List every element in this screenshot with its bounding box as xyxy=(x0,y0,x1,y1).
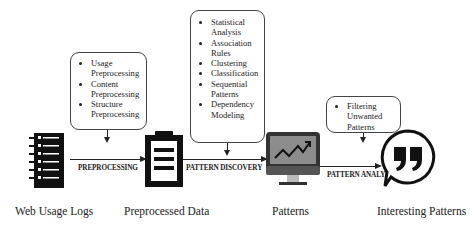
monitor-chart-icon xyxy=(265,130,321,188)
preprocessing-arrow xyxy=(70,159,142,160)
log-list-icon xyxy=(28,131,68,189)
pattern-discovery-methods-box: Statistical Analysis Association Rules C… xyxy=(190,10,265,143)
list-item: Classification xyxy=(191,68,262,78)
down-arrow-icon xyxy=(104,137,110,143)
quote-bubble-icon xyxy=(379,128,437,188)
node-label-interesting-patterns: Interesting Patterns xyxy=(377,205,466,217)
list-item: Dependency Modeling xyxy=(191,99,262,120)
list-item: Content Preprocessing xyxy=(71,79,144,100)
preprocessing-methods-box: Usage Preprocessing Content Preprocessin… xyxy=(70,52,147,130)
pattern-discovery-arrow xyxy=(183,159,263,160)
list-item: Structure Preprocessing xyxy=(71,99,144,120)
node-label-patterns: Patterns xyxy=(272,205,309,217)
list-item: Association Rules xyxy=(191,38,262,59)
down-arrow-icon xyxy=(224,150,230,156)
list-item: Clustering xyxy=(191,58,262,68)
list-item: Statistical Analysis xyxy=(191,17,262,38)
pattern-analysis-arrow xyxy=(320,166,377,167)
list-item: Usage Preprocessing xyxy=(71,58,144,79)
node-label-preprocessed-data: Preprocessed Data xyxy=(124,205,209,217)
list-item: Sequential Patterns xyxy=(191,79,262,100)
down-arrow-icon xyxy=(360,137,366,143)
edge-label-preprocessing: PREPROCESSING xyxy=(78,164,138,172)
edge-label-pattern-discovery: PATTERN DISCOVERY xyxy=(186,164,262,172)
node-label-web-usage-logs: Web Usage Logs xyxy=(15,205,93,217)
clipboard-icon xyxy=(143,130,185,188)
